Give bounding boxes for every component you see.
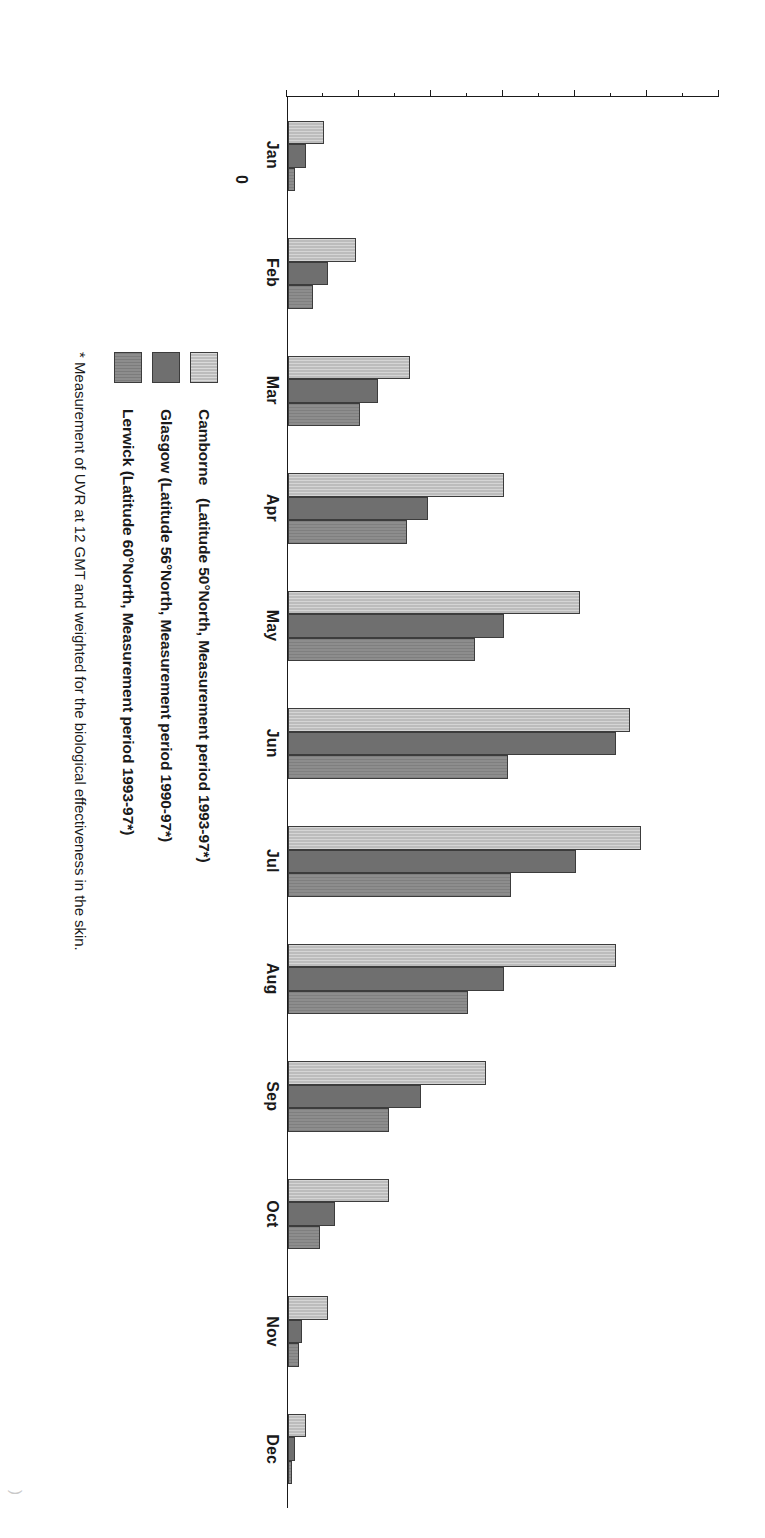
bar-camborne-may: [288, 591, 580, 615]
chart-legend: Camborne (Latitude 50°North, Measurement…: [105, 352, 219, 1352]
bar-glasgow-feb: [288, 262, 328, 286]
bar-camborne-aug: [288, 944, 616, 968]
x-axis-label-jun: Jun: [263, 684, 281, 802]
legend-item-camborne: Camborne (Latitude 50°North, Measurement…: [189, 352, 219, 1352]
bar-group-may: [288, 567, 719, 685]
bar-camborne-sep: [288, 1061, 486, 1085]
bar-lerwick-oct: [288, 1226, 320, 1250]
bar-lerwick-jul: [288, 873, 511, 897]
rotated-figure-canvas: Effective UVR irradiance (Milliwatts per…: [0, 0, 765, 1538]
bar-glasgow-jan: [288, 144, 306, 168]
bar-group-sep: [288, 1038, 719, 1156]
bar-camborne-jan: [288, 121, 324, 145]
x-axis-label-sep: Sep: [263, 1037, 281, 1155]
legend-item-lerwick: Lerwick (Latitude 60°North, Measurement …: [113, 352, 143, 1352]
bar-camborne-dec: [288, 1414, 306, 1438]
bar-glasgow-sep: [288, 1085, 421, 1109]
bar-group-jun: [288, 685, 719, 803]
legend-item-glasgow: Glasgow (Latitude 56°North, Measurement …: [151, 352, 181, 1352]
bar-camborne-nov: [288, 1296, 328, 1320]
bar-lerwick-may: [288, 638, 475, 662]
x-axis-label-feb: Feb: [263, 214, 281, 332]
bar-lerwick-feb: [288, 285, 313, 309]
y-axis-minor-tick-mark: [610, 93, 611, 97]
bar-camborne-mar: [288, 356, 410, 380]
y-axis-tick-mark: [718, 90, 719, 97]
x-axis-label-oct: Oct: [263, 1155, 281, 1273]
x-axis-label-jan: Jan: [263, 96, 281, 214]
bar-group-jul: [288, 802, 719, 920]
bar-lerwick-sep: [288, 1108, 389, 1132]
bar-group-mar: [288, 332, 719, 450]
chart-footnote: * Measurement of UVR at 12 GMT and weigh…: [72, 352, 89, 951]
x-axis-label-aug: Aug: [263, 920, 281, 1038]
y-axis-tick-mark: [502, 90, 503, 97]
y-axis-tick-mark: [430, 90, 431, 97]
bar-group-nov: [288, 1273, 719, 1391]
x-axis-label-jul: Jul: [263, 802, 281, 920]
x-axis-label-nov: Nov: [263, 1273, 281, 1391]
bar-glasgow-mar: [288, 379, 378, 403]
scan-artifact-glyph: ): [10, 1490, 23, 1499]
x-axis-category-labels: JanFebMarAprMayJunJulAugSepOctNovDec: [263, 96, 281, 1508]
plot-area-wrapper: Effective UVR irradiance (Milliwatts per…: [287, 96, 719, 1508]
x-axis-label-dec: Dec: [263, 1390, 281, 1508]
y-axis-minor-tick-mark: [322, 93, 323, 97]
y-axis-minor-tick-mark: [466, 93, 467, 97]
bar-lerwick-mar: [288, 403, 360, 427]
legend-swatch-lerwick: [114, 352, 142, 383]
bar-series-container: [288, 97, 719, 1508]
bar-glasgow-dec: [288, 1437, 295, 1461]
bar-glasgow-apr: [288, 497, 428, 521]
legend-label-lerwick: Lerwick (Latitude 60°North, Measurement …: [119, 409, 137, 835]
bar-group-oct: [288, 1155, 719, 1273]
y-axis-tick-mark: [358, 90, 359, 97]
bar-camborne-feb: [288, 238, 356, 262]
bar-camborne-oct: [288, 1179, 389, 1203]
x-axis-label-may: May: [263, 567, 281, 685]
bar-glasgow-jul: [288, 850, 576, 874]
legend-swatch-glasgow: [152, 352, 180, 383]
bar-glasgow-jun: [288, 732, 616, 756]
y-axis-tick-mark: [646, 90, 647, 97]
bar-lerwick-apr: [288, 520, 407, 544]
bar-glasgow-nov: [288, 1320, 302, 1344]
bar-glasgow-oct: [288, 1202, 335, 1226]
chart-figure: Effective UVR irradiance (Milliwatts per…: [0, 0, 765, 1538]
y-axis-tick-mark: [574, 90, 575, 97]
bar-lerwick-jan: [288, 168, 295, 192]
bar-camborne-jun: [288, 708, 630, 732]
bar-camborne-jul: [288, 826, 641, 850]
bar-lerwick-nov: [288, 1343, 299, 1367]
y-axis-tick-label: 0: [232, 106, 250, 184]
x-axis-label-apr: Apr: [263, 449, 281, 567]
y-axis-minor-tick-mark: [538, 93, 539, 97]
bar-group-apr: [288, 450, 719, 568]
x-axis-label-mar: Mar: [263, 331, 281, 449]
bar-group-dec: [288, 1390, 719, 1508]
y-axis-minor-tick-mark: [682, 93, 683, 97]
bar-group-jan: [288, 97, 719, 215]
bar-glasgow-may: [288, 614, 504, 638]
y-axis-minor-tick-mark: [394, 93, 395, 97]
bar-camborne-apr: [288, 473, 504, 497]
bar-group-aug: [288, 920, 719, 1038]
legend-label-camborne: Camborne (Latitude 50°North, Measurement…: [195, 409, 213, 863]
legend-swatch-camborne: [190, 352, 218, 383]
bar-glasgow-aug: [288, 967, 504, 991]
bar-lerwick-jun: [288, 755, 508, 779]
bar-lerwick-aug: [288, 991, 468, 1015]
y-axis-tick-mark: [286, 90, 287, 97]
legend-label-glasgow: Glasgow (Latitude 56°North, Measurement …: [157, 409, 175, 842]
plot-area: [287, 96, 719, 1508]
bar-group-feb: [288, 215, 719, 333]
bar-lerwick-dec: [288, 1461, 292, 1485]
